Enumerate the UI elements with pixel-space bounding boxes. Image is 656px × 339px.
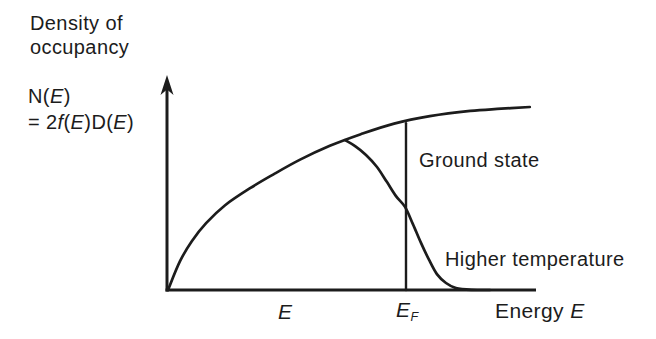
label-segment: (	[64, 111, 71, 133]
higher-temperature-annotation: Higher temperature	[445, 247, 625, 271]
label-segment: E	[71, 111, 85, 133]
label-segment: E	[570, 299, 584, 322]
label-segment: E	[278, 300, 292, 323]
label-segment: F	[410, 310, 418, 324]
label-segment: )	[127, 111, 134, 133]
label-segment: E	[50, 85, 64, 107]
ground-state-annotation: Ground state	[419, 148, 539, 172]
y-axis-title-line2: occupancy	[30, 35, 129, 59]
x-tick-label-fermi-energy: EF	[396, 298, 419, 329]
label-segment: E	[113, 111, 127, 133]
fermi-occupancy-figure: Density of occupancy N(E) = 2f(E)D(E) Gr…	[0, 0, 656, 339]
label-segment: Energy	[495, 299, 570, 322]
label-segment: N(	[28, 85, 50, 107]
x-tick-label-e: E	[278, 300, 292, 324]
x-axis-label-energy: Energy E	[495, 299, 585, 323]
y-axis-title: Density of occupancy	[30, 11, 129, 59]
label-segment: )D(	[84, 111, 113, 133]
y-axis-formula-line1: N(E)	[28, 83, 134, 109]
label-segment: )	[64, 85, 71, 107]
label-segment: = 2	[28, 111, 58, 133]
y-axis-title-line1: Density of	[30, 11, 129, 35]
y-axis-formula-line2: = 2f(E)D(E)	[28, 109, 134, 135]
label-segment: E	[396, 298, 410, 321]
y-axis-formula: N(E) = 2f(E)D(E)	[28, 83, 134, 135]
